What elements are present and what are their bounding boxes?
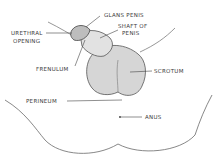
label-perineum: PERINEUM [26, 98, 57, 104]
label-urethral-line2: OPENING [13, 38, 40, 44]
label-scrotum: SCROTUM [154, 68, 184, 74]
label-shaft-line2: PENIS [122, 30, 140, 36]
thigh-line-right [140, 28, 175, 52]
anus-marker [119, 116, 121, 118]
diagram-illustration [0, 0, 215, 164]
leader-frenulum [75, 40, 85, 66]
leader-glans [86, 16, 100, 27]
label-frenulum: FRENULUM [36, 66, 69, 72]
label-glans-penis: GLANS PENIS [104, 12, 144, 18]
leader-perineum [67, 100, 122, 101]
label-anus: ANUS [145, 114, 162, 120]
anatomy-diagram: GLANS PENIS SHAFT OF PENIS URETHRAL OPEN… [0, 0, 215, 164]
label-urethral-line1: URETHRAL [11, 30, 43, 36]
label-shaft-line1: SHAFT OF [118, 23, 147, 29]
